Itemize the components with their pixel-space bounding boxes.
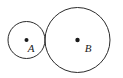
circle-a-label: A — [27, 42, 35, 54]
circle-b-label: B — [85, 42, 92, 54]
figure-canvas: A B — [0, 0, 123, 78]
circle-b-center-dot — [75, 38, 79, 42]
geometry-figure: A B — [0, 0, 123, 78]
